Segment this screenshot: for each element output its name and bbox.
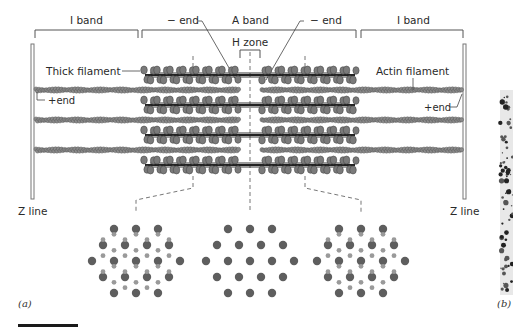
scale-bar xyxy=(18,324,78,327)
thin-filament-dot xyxy=(134,280,139,285)
thick-filament-dot xyxy=(246,257,254,265)
thick-filament-dot xyxy=(290,257,298,265)
thick-filament-dot xyxy=(279,241,287,249)
electron-micrograph-b xyxy=(498,90,513,295)
thick-filament-dot xyxy=(379,289,387,297)
thick-filament-dot xyxy=(401,257,409,265)
thick-filament-dot xyxy=(154,289,162,297)
thin-filament-dot xyxy=(101,253,106,258)
thick-filament-dot xyxy=(132,289,140,297)
thin-filament-dot xyxy=(112,280,117,285)
thin-filament-dot xyxy=(134,232,139,237)
thin-filament-dot xyxy=(145,285,150,290)
plus-end-right-label: +end xyxy=(424,102,451,113)
z-line-right xyxy=(463,44,466,199)
thick-filament xyxy=(141,126,359,144)
thick-filament-dot xyxy=(176,257,184,265)
thick-filament-dot xyxy=(202,257,210,265)
minus-end-right-label: − end xyxy=(310,14,342,26)
thick-filament-dot xyxy=(213,273,221,281)
thin-filament-dot xyxy=(337,264,342,269)
thin-filament-dot xyxy=(326,253,331,258)
thin-filament-dot xyxy=(123,237,128,242)
thick-filament-dot xyxy=(357,289,365,297)
thin-filament-dot xyxy=(348,253,353,258)
actin-filament xyxy=(34,117,241,123)
thick-filament-dot xyxy=(235,241,243,249)
cross-section-h-zone xyxy=(202,225,298,297)
actin-filament xyxy=(34,147,241,153)
thin-filament-dot xyxy=(381,280,386,285)
i-band-right-label: I band xyxy=(397,14,430,26)
thin-filament-dot xyxy=(134,264,139,269)
thick-filament-dot xyxy=(268,289,276,297)
thin-filament-dot xyxy=(101,269,106,274)
thin-filament-dot xyxy=(370,237,375,242)
actin-filament-label: Actin filament xyxy=(376,65,449,77)
thin-filament-dot xyxy=(370,285,375,290)
actin-filament xyxy=(260,147,464,153)
thick-filament-dot xyxy=(235,273,243,281)
thin-filament-dot xyxy=(167,253,172,258)
thin-filament-dot xyxy=(167,269,172,274)
thin-filament-dot xyxy=(348,269,353,274)
thick-filament-dot xyxy=(279,273,287,281)
thick-filament-dot xyxy=(257,241,265,249)
i-band-left-label: I band xyxy=(70,14,103,26)
projection-left xyxy=(136,176,193,212)
thin-filament-dot xyxy=(112,232,117,237)
thin-filament-dot xyxy=(145,253,150,258)
thin-filament-dot xyxy=(392,237,397,242)
actin-filament xyxy=(260,87,464,93)
thin-filament-dot xyxy=(348,285,353,290)
thick-filament-dot xyxy=(257,273,265,281)
i-band-right-bracket xyxy=(361,30,463,38)
thick-filament-dot xyxy=(224,257,232,265)
thin-filament-dot xyxy=(156,232,161,237)
sarcomere-diagram: I band A band I band H zone − end − end … xyxy=(0,0,513,330)
thin-filament-dot xyxy=(101,237,106,242)
thin-filament-dot xyxy=(359,248,364,253)
thin-filament-dot xyxy=(381,248,386,253)
thin-filament-dot xyxy=(156,248,161,253)
thin-filament-dot xyxy=(370,253,375,258)
actin-filaments xyxy=(34,87,464,153)
thick-filament-dot xyxy=(246,289,254,297)
cross-section-overlap-right xyxy=(313,225,409,297)
actin-filament xyxy=(260,117,464,123)
thin-filament-dot xyxy=(167,237,172,242)
h-zone-label: H zone xyxy=(232,36,268,48)
thin-filament-dot xyxy=(348,237,353,242)
thin-filament-dot xyxy=(123,253,128,258)
thin-filament-dot xyxy=(145,269,150,274)
thin-filament-dot xyxy=(337,280,342,285)
thin-filament-dot xyxy=(112,248,117,253)
thin-filament-dot xyxy=(123,269,128,274)
thin-filament-dot xyxy=(156,280,161,285)
thin-filament-dot xyxy=(123,285,128,290)
thick-filament-dot xyxy=(224,225,232,233)
z-line-left-label: Z line xyxy=(18,205,47,217)
thin-filament-dot xyxy=(337,232,342,237)
z-line-right-label: Z line xyxy=(450,205,479,217)
a-band-label: A band xyxy=(232,14,269,26)
actin-filament xyxy=(34,87,241,93)
thin-filament-dot xyxy=(381,264,386,269)
plus-end-left-label: +end xyxy=(48,95,75,106)
minus-end-left-label: − end xyxy=(167,14,199,26)
thin-filament-dot xyxy=(359,232,364,237)
thin-filament-dot xyxy=(112,264,117,269)
thin-filament-dot xyxy=(370,269,375,274)
thick-filament-dot xyxy=(313,257,321,265)
plus-end-right-leader xyxy=(450,94,462,107)
thick-filament-dot xyxy=(110,289,118,297)
thick-filament-dot xyxy=(224,289,232,297)
cross-section-overlap-left xyxy=(88,225,184,297)
thick-filament-dot xyxy=(88,257,96,265)
thick-filament-label: Thick filament xyxy=(45,65,121,77)
thick-filament-dot xyxy=(268,225,276,233)
thin-filament-dot xyxy=(392,269,397,274)
thin-filament-dot xyxy=(326,269,331,274)
thin-filament-dot xyxy=(392,253,397,258)
panel-label-a: (a) xyxy=(18,298,32,309)
